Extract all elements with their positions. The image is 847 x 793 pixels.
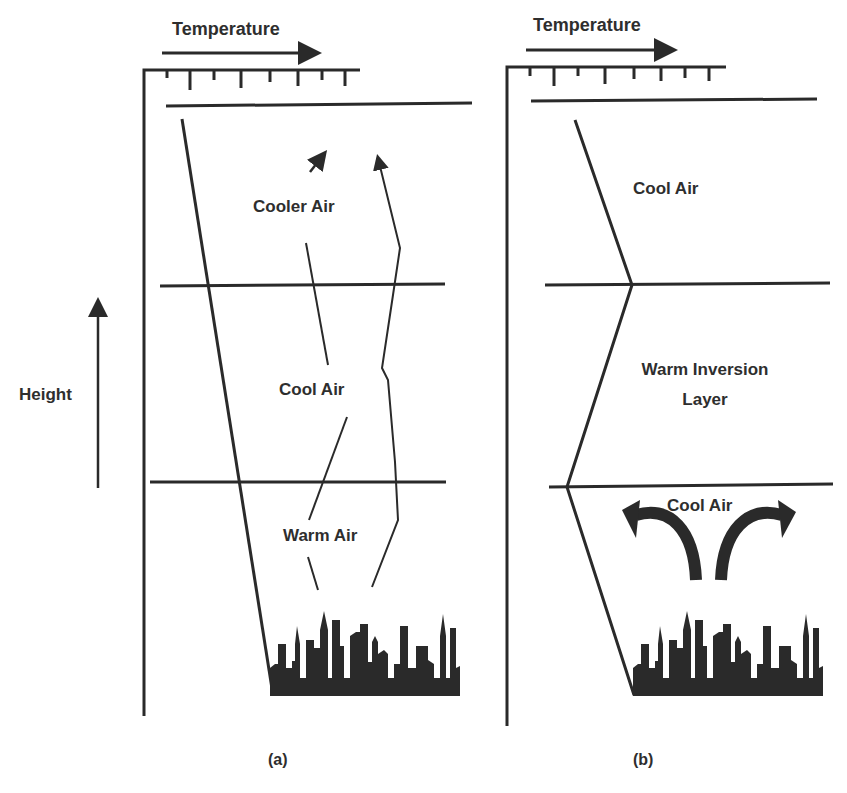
- layer-boundary-middle: [160, 284, 445, 286]
- rising-air-path-left: [306, 243, 328, 365]
- panel-b-layer-3-label: Cool Air: [667, 497, 732, 514]
- curved-arrow-right-icon: [721, 513, 782, 580]
- height-axis-label: Height: [19, 386, 72, 403]
- panel-a-layer-3-label: Warm Air: [283, 527, 357, 544]
- panel-b-caption: (b): [633, 752, 653, 768]
- temperature-ticks: [167, 70, 345, 90]
- panel-b: [507, 50, 833, 726]
- layer-boundary-middle: [545, 283, 830, 285]
- rising-air-path-left-bottom: [308, 557, 318, 590]
- panel-a-layer-2-label: Cool Air: [279, 381, 344, 398]
- layer-boundary-bottom: [549, 484, 833, 487]
- panel-a-caption: (a): [268, 752, 288, 768]
- panel-b-layer-2-label-line2: Layer: [620, 391, 790, 408]
- panel-b-temperature-label: Temperature: [533, 16, 641, 34]
- city-skyline-icon: [633, 611, 823, 696]
- panel-a-layer-1-label: Cooler Air: [253, 198, 335, 215]
- panel-b-layer-1-label: Cool Air: [633, 180, 698, 197]
- panel-a-temperature-label: Temperature: [172, 20, 280, 38]
- curved-arrow-left-icon: [636, 513, 696, 580]
- panel-b-layer-2-label: Warm Inversion: [620, 361, 790, 378]
- city-skyline-icon: [270, 611, 460, 696]
- temperature-ticks: [530, 67, 709, 86]
- rising-air-arrow-icon: [372, 158, 400, 587]
- up-arrow-icon: [310, 154, 324, 172]
- layer-boundary-top: [531, 99, 817, 101]
- layer-boundary-top: [166, 103, 472, 106]
- rising-air-path-left-lower: [309, 417, 347, 520]
